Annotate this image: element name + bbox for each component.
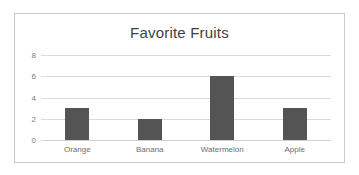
y-tick-label-6: 6 [32,72,36,81]
x-tick-label-apple: Apple [285,145,305,154]
bar-watermelon[interactable] [210,76,234,140]
gridline-0 [41,140,331,141]
gridline-4 [41,98,331,99]
gridline-8 [41,55,331,56]
y-tick-label-8: 8 [32,51,36,60]
y-tick-label-0: 0 [32,136,36,145]
x-tick-label-orange: Orange [64,145,91,154]
plot-area: 02468 OrangeBananaWatermelonApple [41,55,331,140]
x-tick-label-banana: Banana [136,145,164,154]
x-tick-label-watermelon: Watermelon [201,145,244,154]
y-tick-label-2: 2 [32,114,36,123]
y-tick-label-4: 4 [32,93,36,102]
bar-apple[interactable] [283,108,307,140]
chart-container: Favorite Fruits 02468 OrangeBananaWaterm… [14,13,345,163]
bar-orange[interactable] [65,108,89,140]
gridline-6 [41,76,331,77]
chart-title: Favorite Fruits [15,24,344,41]
bar-banana[interactable] [138,119,162,140]
